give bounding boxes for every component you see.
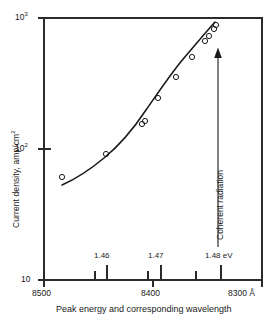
y-tick-label-10: 10 <box>21 275 30 284</box>
data-point <box>202 38 207 43</box>
figure-log-plot: 103 102 10 Current density, amp/cm2 8500… <box>0 0 280 324</box>
fit-curve <box>62 22 215 185</box>
data-point <box>59 174 64 179</box>
x-tick-label-8400: 8400 <box>141 289 160 298</box>
plot-frame <box>44 18 262 280</box>
data-point <box>173 74 178 79</box>
x-tick-label-8300: 8300 Å <box>228 289 255 298</box>
energy-tick-label-147: 1.47 <box>148 252 164 260</box>
x-axis-title: Peak energy and corresponding wavelength <box>56 305 232 314</box>
coherent-radiation-label: Coherent radiation <box>216 170 225 240</box>
wavelength-axis-ticks <box>44 280 262 287</box>
energy-tick-label-146: 1.46 <box>94 252 110 260</box>
data-point <box>139 121 144 126</box>
x-tick-label-8500: 8500 <box>32 289 51 298</box>
y-tick-label-1000: 103 <box>15 13 28 22</box>
energy-tick-label-148: 1.48 eV <box>205 252 233 260</box>
data-point <box>189 54 194 59</box>
plot-canvas <box>0 0 280 324</box>
y-axis-ticks <box>44 18 51 280</box>
energy-axis-ticks <box>95 265 221 280</box>
data-point <box>155 95 160 100</box>
data-point <box>142 118 147 123</box>
y-axis-outer-ticks <box>38 18 44 280</box>
data-point <box>206 33 211 38</box>
y-axis-title: Current density, amp/cm2 <box>12 130 21 228</box>
